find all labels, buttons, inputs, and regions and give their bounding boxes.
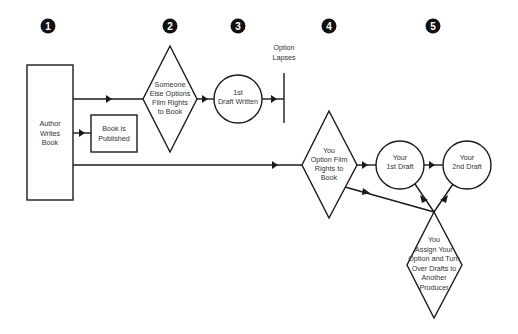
node-first-draft-written: 1st Draft Written xyxy=(214,75,262,123)
svg-text:Book: Book xyxy=(321,173,338,182)
arrow-icon xyxy=(79,129,85,137)
node-someone-else-options: Someone Else Options Film Rights to Book xyxy=(143,46,197,152)
svg-text:Film Rights: Film Rights xyxy=(152,98,188,107)
svg-text:You: You xyxy=(323,146,335,155)
svg-text:Writes: Writes xyxy=(40,129,61,138)
svg-text:Another: Another xyxy=(421,273,447,282)
node-book-published: Book is Published xyxy=(91,115,137,152)
svg-text:Option Film: Option Film xyxy=(311,155,348,164)
svg-text:5: 5 xyxy=(430,21,436,32)
svg-text:Your: Your xyxy=(460,153,475,162)
svg-text:Assign Your: Assign Your xyxy=(415,245,454,254)
arrow-icon xyxy=(429,161,435,169)
flowchart: 1 2 3 4 5 xyxy=(0,0,518,334)
svg-text:Rights to: Rights to xyxy=(315,164,343,173)
arrow-icon xyxy=(106,95,112,103)
node-your-first-draft: Your 1st Draft xyxy=(376,141,424,189)
svg-text:Someone: Someone xyxy=(155,80,186,89)
svg-text:Producer: Producer xyxy=(419,283,449,292)
svg-text:Book is: Book is xyxy=(102,124,126,133)
svg-text:Published: Published xyxy=(98,134,130,143)
svg-text:2: 2 xyxy=(167,21,173,32)
step-badge-3: 3 xyxy=(231,19,246,34)
svg-text:Lapses: Lapses xyxy=(272,53,296,62)
svg-text:Your: Your xyxy=(393,153,408,162)
step-badge-4: 4 xyxy=(322,19,337,34)
svg-text:Over Drafts to: Over Drafts to xyxy=(412,264,457,273)
edge-option-assign xyxy=(345,187,434,212)
step-badge-1: 1 xyxy=(41,19,56,34)
arrow-icon xyxy=(272,161,278,169)
node-you-option-film-rights: You Option Film Rights to Book xyxy=(302,111,357,218)
node-author-writes-book: Author Writes Book xyxy=(27,65,73,200)
svg-text:1st Draft: 1st Draft xyxy=(386,162,413,171)
svg-text:3: 3 xyxy=(235,21,241,32)
arrow-icon xyxy=(271,95,277,103)
step-badge-2: 2 xyxy=(163,19,178,34)
svg-text:Book: Book xyxy=(42,138,59,147)
node-option-lapses: Option Lapses xyxy=(272,43,296,62)
svg-text:Option: Option xyxy=(273,43,294,52)
svg-text:Else Options: Else Options xyxy=(150,89,191,98)
node-assign-option: You Assign Your Option and Turn Over Dra… xyxy=(407,212,462,318)
svg-text:You: You xyxy=(428,235,440,244)
arrow-icon xyxy=(202,95,208,103)
svg-text:2nd Draft: 2nd Draft xyxy=(452,162,482,171)
svg-text:4: 4 xyxy=(326,21,332,32)
step-badge-5: 5 xyxy=(426,19,441,34)
svg-text:1: 1 xyxy=(45,21,51,32)
node-your-second-draft: Your 2nd Draft xyxy=(443,141,491,189)
svg-text:Draft Written: Draft Written xyxy=(218,97,258,106)
svg-text:1st: 1st xyxy=(233,88,243,97)
arrow-icon xyxy=(362,161,368,169)
svg-text:Author: Author xyxy=(39,119,61,128)
svg-text:Option and Turn: Option and Turn xyxy=(408,254,460,263)
svg-text:to Book: to Book xyxy=(158,107,183,116)
